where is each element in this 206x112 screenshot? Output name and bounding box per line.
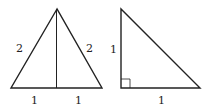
right-triangle-outline [121,9,200,88]
label-base-left: 1 [31,94,38,107]
right-angle-marker [121,79,130,88]
label-vertical-leg: 1 [110,43,117,56]
diagram-canvas: 2 2 1 1 1 1 [0,0,206,112]
label-base-right: 1 [75,94,82,107]
label-left-side: 2 [16,42,23,55]
label-horizontal-leg: 1 [158,94,165,107]
right-triangle [121,9,200,88]
label-right-side: 2 [86,42,93,55]
